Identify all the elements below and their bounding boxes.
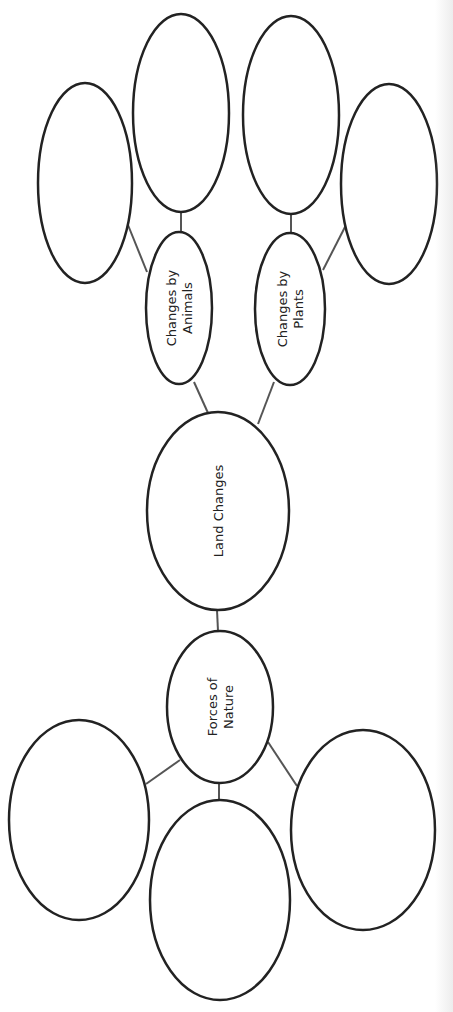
node-label-line: Changes by <box>164 269 179 346</box>
bubble-ellipse <box>255 233 325 385</box>
blank-answer-bubble[interactable] <box>341 84 437 284</box>
concept-map: Land ChangesForces ofNatureChanges byAni… <box>0 0 453 1012</box>
node-plants: Changes byPlants <box>255 233 325 385</box>
node-label-line: Forces of <box>205 677 220 736</box>
node-label: Land Changes <box>211 465 226 558</box>
connector-land-plants <box>258 382 274 424</box>
blank-answer-bubble[interactable] <box>243 16 339 214</box>
node-label-line: Animals <box>180 282 195 334</box>
node-label-line: Plants <box>291 289 306 329</box>
node-forces-blank-3[interactable] <box>291 730 435 930</box>
blank-answer-bubble[interactable] <box>9 720 149 920</box>
connector-forces-forces_blank_3 <box>268 742 297 786</box>
connector-land-forces <box>217 610 218 631</box>
node-label-line: Land Changes <box>211 465 226 558</box>
connector-animals-animals_blank_1 <box>128 225 147 272</box>
node-label: Forces ofNature <box>205 677 236 736</box>
node-animals-blank-1[interactable] <box>38 83 132 283</box>
node-plants-blank-1[interactable] <box>243 16 339 214</box>
blank-answer-bubble[interactable] <box>291 730 435 930</box>
node-label-line: Changes by <box>275 270 290 347</box>
node-plants-blank-2[interactable] <box>341 84 437 284</box>
blank-answer-bubble[interactable] <box>150 800 290 1000</box>
node-forces-blank-2[interactable] <box>150 800 290 1000</box>
node-land: Land Changes <box>147 412 289 610</box>
bubble-ellipse <box>146 232 212 384</box>
node-animals: Changes byAnimals <box>146 232 212 384</box>
connector-plants-plants_blank_2 <box>323 225 346 270</box>
concept-map-canvas: Land ChangesForces ofNatureChanges byAni… <box>0 0 453 1012</box>
blank-answer-bubble[interactable] <box>133 14 229 212</box>
bubble-ellipse <box>167 631 273 783</box>
bubble-nodes: Land ChangesForces ofNatureChanges byAni… <box>9 14 437 1000</box>
connector-land-animals <box>194 382 208 413</box>
node-forces: Forces ofNature <box>167 631 273 783</box>
node-animals-blank-2[interactable] <box>133 14 229 212</box>
node-label-line: Nature <box>221 685 236 729</box>
blank-answer-bubble[interactable] <box>38 83 132 283</box>
node-forces-blank-1[interactable] <box>9 720 149 920</box>
page-edge-shadow <box>435 0 453 1012</box>
connector-forces-forces_blank_1 <box>146 760 180 784</box>
